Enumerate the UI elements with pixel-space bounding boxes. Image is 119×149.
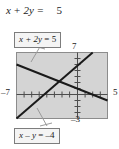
callout-2-rhs: –4	[46, 130, 55, 140]
y-axis-min-label: –3	[71, 115, 80, 124]
plot-background-rect	[17, 53, 108, 119]
x-axis-max-label: 5	[113, 88, 118, 97]
callout-1-rhs: 5	[52, 34, 57, 44]
coordinate-plane-svg	[0, 0, 119, 149]
callout-2-lhs: x – y	[19, 130, 36, 140]
callout-1-equals: =	[44, 34, 49, 44]
plot-area-wrapper	[0, 0, 119, 149]
callout-equation-2: x – y = –4	[14, 128, 60, 144]
y-axis-max-label: 7	[72, 42, 77, 51]
x-axis-min-label: –7	[1, 88, 10, 97]
callout-equation-1: x + 2y = 5	[14, 32, 61, 48]
callout-2-equals: =	[38, 130, 43, 140]
callout-1-lhs: x + 2y	[19, 34, 42, 44]
linear-system-figure: x + 2y = 5	[0, 0, 119, 149]
